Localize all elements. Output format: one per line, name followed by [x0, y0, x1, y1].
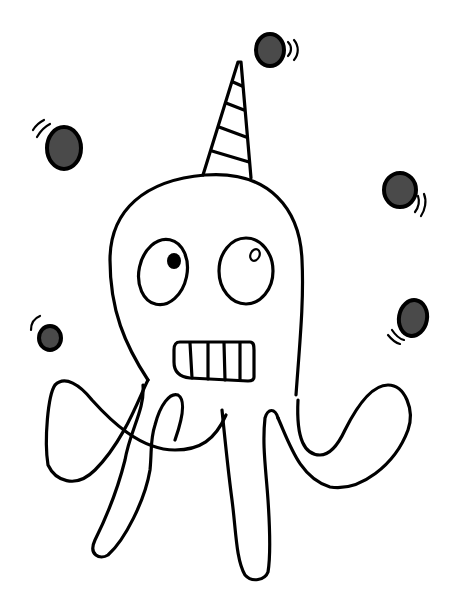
right-eye-icon — [219, 238, 273, 304]
juggling-ball-upper-left — [33, 120, 81, 169]
mouth-teeth-icon — [174, 342, 254, 381]
tentacle-middle-icon — [222, 410, 278, 580]
tentacle-left-icon — [46, 380, 226, 481]
juggling-ball-lower-right — [388, 298, 430, 344]
juggling-ball-top — [256, 34, 298, 66]
tentacle-front-left-icon — [93, 385, 183, 557]
octopus-drawing — [0, 0, 463, 605]
juggling-ball-upper-right — [384, 173, 425, 216]
party-hat-icon — [203, 62, 251, 178]
tentacle-right-icon — [278, 385, 410, 488]
illustration-canvas: Juggling octopus with party hat — [0, 0, 463, 605]
juggling-ball-lower-left — [31, 316, 61, 350]
left-eye-icon — [133, 235, 194, 310]
